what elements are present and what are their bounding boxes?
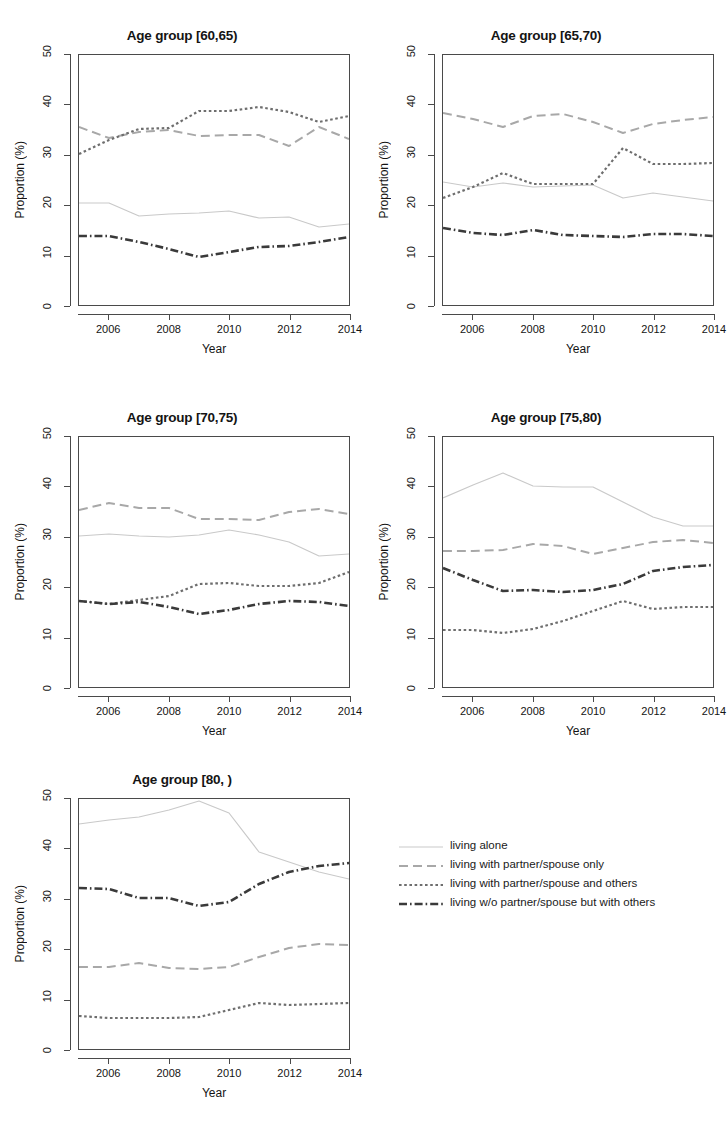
y-axis-line (434, 436, 435, 688)
series-line-4 (443, 565, 713, 592)
y-tick-label-text: 10 (406, 246, 417, 258)
y-tick-label-text: 10 (406, 628, 417, 640)
y-tick-mark (428, 205, 434, 206)
x-tick-label: 2014 (338, 705, 362, 717)
legend-item-4: living w/o partner/spouse but with other… (398, 893, 728, 911)
x-tick-label: 2010 (217, 1067, 241, 1079)
y-axis-title-text: Proportion (%) (13, 885, 27, 962)
plot-area (78, 436, 350, 688)
y-tick-label: 50 (398, 425, 424, 443)
y-tick-label-text: 40 (42, 95, 53, 107)
x-tick-mark (108, 1058, 109, 1064)
series-canvas (79, 437, 349, 687)
y-tick-mark (64, 205, 70, 206)
series-canvas (443, 55, 713, 305)
x-axis-title: Year (78, 724, 350, 738)
y-tick-mark (428, 256, 434, 257)
chart-panel-2: Age group [65,70)01020304050Proportion (… (364, 18, 728, 400)
y-tick-mark (64, 1050, 70, 1051)
legend-label: living alone (450, 839, 508, 851)
x-axis-line (442, 696, 714, 697)
legend-line-swatch (398, 896, 444, 908)
y-tick-label-text: 0 (42, 1047, 53, 1053)
x-tick-mark (593, 314, 594, 320)
x-tick-label: 2012 (277, 1067, 301, 1079)
y-tick-label-text: 30 (406, 146, 417, 158)
x-axis-line (442, 314, 714, 315)
y-tick-mark (64, 899, 70, 900)
y-tick-label: 50 (398, 43, 424, 61)
y-tick-label: 40 (398, 93, 424, 111)
y-tick-label: 40 (34, 837, 60, 855)
x-tick-label: 2010 (217, 705, 241, 717)
y-tick-label-text: 20 (42, 578, 53, 590)
y-tick-label: 0 (34, 677, 60, 695)
y-tick-label-text: 50 (42, 427, 53, 439)
y-axis-title: Proportion (%) (376, 436, 392, 688)
y-tick-mark (64, 688, 70, 689)
y-axis-title: Proportion (%) (12, 54, 28, 306)
series-line-3 (443, 601, 713, 633)
y-axis-title-text: Proportion (%) (377, 141, 391, 218)
x-tick-mark (229, 1058, 230, 1064)
x-tick-mark (290, 1058, 291, 1064)
series-canvas (443, 437, 713, 687)
chart-panel-1: Age group [60,65)01020304050Proportion (… (0, 18, 364, 400)
y-tick-label-text: 20 (406, 196, 417, 208)
series-line-3 (79, 1003, 349, 1018)
x-tick-label: 2010 (581, 705, 605, 717)
legend-label: living w/o partner/spouse but with other… (450, 896, 655, 908)
y-tick-mark (428, 587, 434, 588)
x-tick-mark (108, 696, 109, 702)
y-tick-label-text: 10 (42, 246, 53, 258)
x-tick-label: 2008 (520, 323, 544, 335)
y-tick-mark (64, 436, 70, 437)
legend-label: living with partner/spouse and others (450, 877, 637, 889)
y-tick-label: 40 (398, 475, 424, 493)
y-tick-label-text: 0 (42, 303, 53, 309)
y-tick-label-text: 10 (42, 990, 53, 1002)
x-tick-mark (350, 696, 351, 702)
panel-title: Age group [80, ) (0, 772, 364, 787)
y-tick-label-text: 0 (406, 303, 417, 309)
y-tick-label-text: 50 (406, 45, 417, 57)
y-tick-label: 0 (398, 295, 424, 313)
y-tick-mark (428, 638, 434, 639)
y-tick-mark (64, 587, 70, 588)
x-tick-mark (229, 696, 230, 702)
x-tick-label: 2014 (338, 1067, 362, 1079)
chart-panel-4: Age group [75,80)01020304050Proportion (… (364, 400, 728, 782)
x-tick-mark (533, 696, 534, 702)
y-tick-label: 10 (34, 627, 60, 645)
y-axis-line (70, 54, 71, 306)
y-tick-mark (64, 256, 70, 257)
panel-title: Age group [70,75) (0, 410, 364, 425)
y-tick-mark (428, 306, 434, 307)
y-tick-label-text: 40 (42, 477, 53, 489)
y-tick-mark (64, 54, 70, 55)
y-tick-label-text: 50 (42, 789, 53, 801)
series-line-2 (443, 540, 713, 554)
series-canvas (79, 55, 349, 305)
x-tick-label: 2010 (581, 323, 605, 335)
y-tick-label: 20 (398, 576, 424, 594)
series-line-4 (443, 228, 713, 237)
x-tick-mark (654, 314, 655, 320)
y-tick-mark (64, 798, 70, 799)
series-line-1 (443, 182, 713, 201)
y-tick-label-text: 20 (42, 196, 53, 208)
x-tick-label: 2014 (702, 705, 726, 717)
panel-title: Age group [65,70) (364, 28, 728, 43)
y-tick-label: 20 (34, 576, 60, 594)
x-tick-label: 2012 (277, 323, 301, 335)
x-tick-label: 2012 (641, 705, 665, 717)
x-tick-label: 2008 (156, 323, 180, 335)
y-tick-label: 0 (34, 1039, 60, 1057)
series-line-1 (79, 530, 349, 556)
y-tick-label: 30 (398, 526, 424, 544)
series-canvas (79, 799, 349, 1049)
legend-line-swatch (398, 858, 444, 870)
y-tick-label: 50 (34, 425, 60, 443)
series-line-2 (79, 503, 349, 520)
series-line-3 (79, 572, 349, 604)
